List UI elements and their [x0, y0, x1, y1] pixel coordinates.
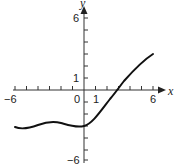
- x-axis-label: x: [167, 84, 174, 98]
- x-tick-label-1: 1: [93, 93, 99, 105]
- x-tick-label-neg6: −6: [4, 93, 17, 105]
- x-tick-label-0: 0: [74, 93, 80, 105]
- chart: y x −6 0 1 6 6 1 −6: [0, 0, 177, 165]
- y-tick-label-6: 6: [73, 12, 79, 24]
- y-tick-label-neg6: −6: [67, 154, 80, 165]
- y-tick-label-1: 1: [73, 72, 79, 84]
- y-ticks: [84, 18, 88, 160]
- x-axis-arrow-icon: [158, 87, 166, 94]
- y-axis-label: y: [79, 0, 86, 10]
- x-tick-label-6: 6: [150, 93, 156, 105]
